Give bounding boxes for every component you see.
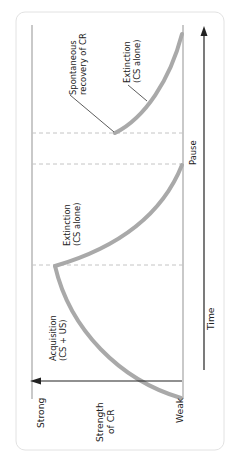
strength-title-line2: of CR	[105, 409, 116, 434]
label-acquisition: Acquisition (CS + US)	[48, 315, 68, 361]
label-extinction-1: Extinction (CS alone)	[62, 203, 82, 246]
label-extinction-1-line1: Extinction	[62, 204, 72, 246]
time-axis-title: Time	[205, 307, 216, 331]
label-extinction-2-line2: (CS alone)	[132, 40, 142, 83]
label-pause: Pause	[188, 140, 198, 165]
strong-label-text: Strong	[35, 398, 46, 428]
label-extinction-2: Extinction (CS alone)	[122, 40, 142, 83]
label-pause-text: Pause	[188, 140, 198, 165]
weak-label-text: Weak	[174, 397, 185, 423]
label-acquisition-line1: Acquisition	[48, 315, 58, 361]
classical-conditioning-figure: Spontaneous recovery of CR Extinction (C…	[0, 0, 232, 468]
strong-label: Strong	[35, 398, 46, 428]
label-extinction-1-line2: (CS alone)	[72, 203, 82, 246]
figure-card	[16, 12, 224, 450]
label-spontaneous-line2: recovery of CR	[78, 33, 88, 95]
weak-label: Weak	[174, 397, 185, 423]
label-acquisition-line2: (CS + US)	[58, 320, 68, 362]
strength-title-line1: Strength	[94, 402, 105, 442]
label-extinction-2-line1: Extinction	[122, 41, 132, 83]
label-spontaneous-line1: Spontaneous	[68, 40, 78, 95]
time-axis-label: Time	[205, 307, 216, 331]
label-spontaneous: Spontaneous recovery of CR	[68, 33, 88, 95]
